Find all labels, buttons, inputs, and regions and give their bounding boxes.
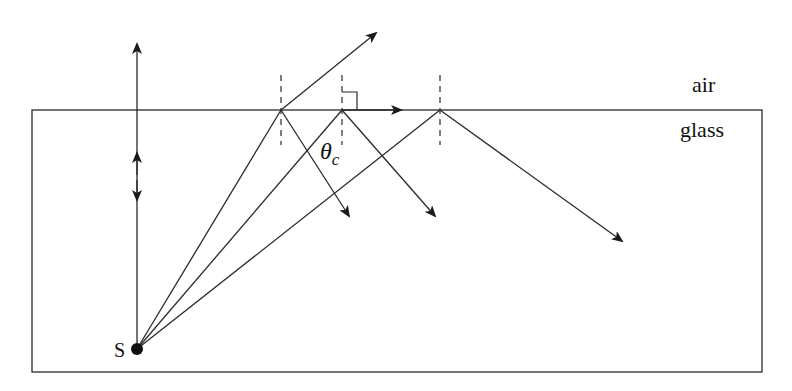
incident-ray-1: [137, 110, 281, 349]
air-label: air: [692, 72, 716, 97]
refracted-ray: [281, 33, 376, 110]
incident-ray-2: [137, 110, 342, 349]
incident-ray-3: [137, 110, 440, 349]
rays: [137, 33, 622, 349]
theta-symbol: θ: [320, 138, 332, 164]
reflected-ray-2: [342, 110, 435, 216]
reflected-ray-3: [440, 110, 622, 241]
source-point: [131, 343, 143, 355]
theta-subscript: c: [332, 150, 340, 169]
glass-label: glass: [680, 117, 724, 142]
right-angle-marker: [342, 92, 357, 110]
critical-angle-label: θc: [320, 138, 340, 169]
tir-diagram: S air glass θc: [0, 0, 792, 391]
source-label: S: [114, 339, 125, 361]
glass-block: [32, 110, 762, 372]
